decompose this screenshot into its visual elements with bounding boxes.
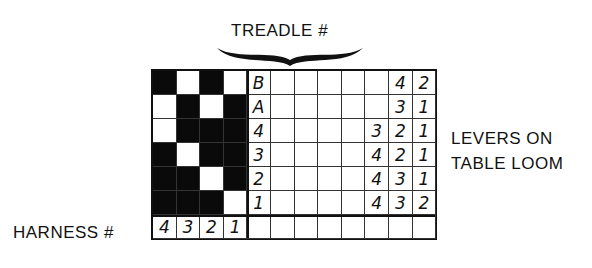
blank-cell: [318, 167, 342, 191]
threading-cell-filled: [177, 95, 201, 119]
lever-cell: 2: [413, 71, 437, 95]
lever-cell: 1: [413, 167, 437, 191]
blank-cell: [295, 119, 319, 143]
threading-cell-filled: [153, 191, 177, 215]
threading-cell-filled: [200, 119, 224, 143]
treadle-id-cell: 2: [247, 167, 271, 191]
lever-cell: 2: [389, 143, 413, 167]
blank-cell: [295, 191, 319, 215]
lever-cell: [342, 167, 366, 191]
lever-cell: 3: [365, 119, 389, 143]
lever-cell: [342, 191, 366, 215]
threading-cell-filled: [200, 191, 224, 215]
threading-cell-filled: [177, 191, 201, 215]
lever-cell: 3: [389, 95, 413, 119]
blank-cell: [271, 143, 295, 167]
lever-cell: 4: [365, 167, 389, 191]
tieup-grid: B42A3143213421243114324321: [151, 69, 437, 240]
lever-cell: 2: [413, 191, 437, 215]
threading-cell-filled: [153, 143, 177, 167]
lever-cell: 1: [413, 119, 437, 143]
lever-cell: [342, 143, 366, 167]
threading-cell-filled: [224, 143, 248, 167]
threading-cell-filled: [224, 95, 248, 119]
threading-cell-filled: [200, 71, 224, 95]
treadle-id-cell: 4: [247, 119, 271, 143]
treadle-id-cell: B: [247, 71, 271, 95]
harness-number-cell: 2: [200, 215, 224, 239]
treadle-id-cell: 1: [247, 191, 271, 215]
blank-cell: [271, 71, 295, 95]
treadle-label: TREADLE #: [231, 21, 328, 41]
grid-divider-horizontal: [153, 215, 435, 217]
threading-cell-empty: [224, 191, 248, 215]
blank-cell: [318, 119, 342, 143]
blank-cell: [295, 215, 319, 239]
blank-cell: [413, 215, 437, 239]
levers-label: LEVERS ON TABLE LOOM: [451, 126, 563, 176]
threading-cell-filled: [224, 119, 248, 143]
blank-cell: [295, 95, 319, 119]
threading-cell-filled: [200, 143, 224, 167]
threading-cell-filled: [153, 71, 177, 95]
threading-cell-empty: [224, 71, 248, 95]
lever-cell: 2: [389, 119, 413, 143]
lever-cell: 1: [413, 143, 437, 167]
harness-number-cell: 3: [177, 215, 201, 239]
lever-cell: 4: [389, 71, 413, 95]
curly-brace-icon: [215, 44, 365, 70]
threading-cell-filled: [177, 167, 201, 191]
blank-cell: [318, 71, 342, 95]
lever-cell: 3: [389, 167, 413, 191]
lever-cell: 4: [365, 143, 389, 167]
harness-label: HARNESS #: [13, 223, 114, 243]
blank-cell: [271, 167, 295, 191]
levers-label-line1: LEVERS ON: [451, 126, 563, 151]
lever-cell: [365, 71, 389, 95]
threading-cell-empty: [153, 119, 177, 143]
lever-cell: [342, 71, 366, 95]
threading-cell-filled: [153, 167, 177, 191]
blank-cell: [295, 71, 319, 95]
threading-cell-empty: [200, 167, 224, 191]
threading-cell-filled: [177, 119, 201, 143]
grid-divider-vertical: [247, 71, 249, 238]
treadle-id-cell: A: [247, 95, 271, 119]
lever-cell: [365, 95, 389, 119]
threading-cell-empty: [177, 71, 201, 95]
blank-cell: [295, 143, 319, 167]
blank-cell: [389, 215, 413, 239]
lever-cell: 4: [365, 191, 389, 215]
threading-cell-filled: [224, 167, 248, 191]
treadle-id-cell: 3: [247, 143, 271, 167]
blank-cell: [318, 191, 342, 215]
levers-label-line2: TABLE LOOM: [451, 151, 563, 176]
blank-cell: [271, 191, 295, 215]
lever-cell: 3: [389, 191, 413, 215]
blank-cell: [271, 95, 295, 119]
blank-cell: [271, 119, 295, 143]
blank-cell: [271, 215, 295, 239]
threading-cell-empty: [200, 95, 224, 119]
lever-cell: 1: [413, 95, 437, 119]
lever-cell: [342, 119, 366, 143]
blank-cell: [247, 215, 271, 239]
threading-cell-empty: [153, 95, 177, 119]
lever-cell: [342, 95, 366, 119]
harness-number-cell: 1: [224, 215, 248, 239]
blank-cell: [365, 215, 389, 239]
threading-cell-empty: [177, 143, 201, 167]
blank-cell: [318, 215, 342, 239]
blank-cell: [295, 167, 319, 191]
blank-cell: [318, 95, 342, 119]
blank-cell: [318, 143, 342, 167]
blank-cell: [342, 215, 366, 239]
harness-number-cell: 4: [153, 215, 177, 239]
